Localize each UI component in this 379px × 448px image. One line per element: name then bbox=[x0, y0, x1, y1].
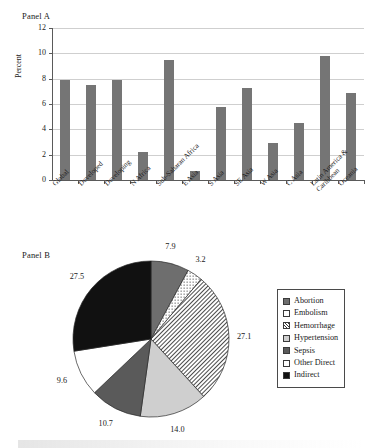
pie-value-label: 14.0 bbox=[170, 425, 184, 434]
pie-value-label: 3.2 bbox=[195, 255, 205, 264]
panel-a-bars bbox=[52, 28, 364, 180]
legend-swatch-icon bbox=[283, 372, 290, 379]
legend-swatch-icon bbox=[283, 360, 290, 367]
legend-item-label: Hemorrhage bbox=[294, 322, 335, 330]
panel-a-label: Panel A bbox=[22, 11, 50, 21]
y-tick-label: 4 bbox=[20, 124, 46, 133]
legend-item: Hypertension bbox=[283, 332, 338, 344]
panel-b-pie-area bbox=[72, 260, 230, 418]
legend-item-label: Other Direct bbox=[294, 359, 335, 367]
panel-b-label: Panel B bbox=[22, 250, 50, 260]
pie-value-label: 7.9 bbox=[165, 242, 175, 251]
bar bbox=[60, 80, 70, 180]
legend-item-label: Indirect bbox=[294, 371, 319, 379]
y-tick-label: 12 bbox=[20, 23, 46, 32]
pie-value-label: 27.5 bbox=[70, 272, 84, 281]
pie-legend: AbortionEmbolismHemorrhageHypertensionSe… bbox=[277, 289, 345, 388]
legend-item-label: Hypertension bbox=[294, 334, 338, 342]
pie-value-label: 10.7 bbox=[99, 419, 113, 428]
pie-value-label: 27.1 bbox=[237, 332, 251, 341]
legend-item: Hemorrhage bbox=[283, 320, 338, 332]
scan-artifact-bottom bbox=[18, 440, 363, 448]
panel-a-plot-area: 024681012 bbox=[52, 28, 364, 180]
legend-item-label: Sepsis bbox=[294, 347, 315, 355]
figure-canvas: Panel A Percent 024681012 GlobalDevelope… bbox=[0, 0, 379, 448]
panel-b: Panel B 7.93.227.114.010.79.627.5 Aborti… bbox=[0, 236, 379, 448]
legend-swatch-icon bbox=[283, 322, 290, 329]
legend-swatch-icon bbox=[283, 347, 290, 354]
legend-item-label: Embolism bbox=[294, 309, 328, 317]
y-tick-label: 2 bbox=[20, 150, 46, 159]
panel-a-x-labels: GlobalDevelopedDevelopingN AfricaSub-Sah… bbox=[52, 182, 379, 236]
legend-swatch-icon bbox=[283, 335, 290, 342]
bar bbox=[164, 60, 174, 180]
legend-item-label: Abortion bbox=[294, 297, 324, 305]
legend-item: Abortion bbox=[283, 295, 338, 307]
legend-item: Other Direct bbox=[283, 357, 338, 369]
y-tick-label: 10 bbox=[20, 48, 46, 57]
pie-chart bbox=[72, 260, 230, 418]
pie-value-label: 9.6 bbox=[57, 376, 67, 385]
legend-item: Sepsis bbox=[283, 345, 338, 357]
legend-item: Embolism bbox=[283, 307, 338, 319]
legend-item: Indirect bbox=[283, 369, 338, 381]
legend-swatch-icon bbox=[283, 310, 290, 317]
y-tick-label: 6 bbox=[20, 99, 46, 108]
legend-swatch-icon bbox=[283, 298, 290, 305]
panel-a: Panel A Percent 024681012 GlobalDevelope… bbox=[0, 0, 379, 236]
y-tick-label: 8 bbox=[20, 74, 46, 83]
pie-slice bbox=[73, 261, 151, 351]
y-tick-label: 0 bbox=[20, 175, 46, 184]
